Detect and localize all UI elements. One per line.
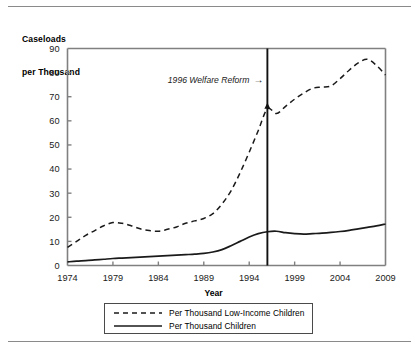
y-tick-label: 70 bbox=[49, 92, 59, 102]
x-axis-title: Year bbox=[204, 288, 223, 298]
series-line-1 bbox=[68, 224, 386, 262]
legend-label-low-income: Per Thousand Low-Income Children bbox=[169, 308, 305, 318]
y-tick-label: 50 bbox=[49, 140, 59, 150]
legend-label-children: Per Thousand Children bbox=[169, 321, 256, 331]
legend-swatch-dashed bbox=[113, 308, 163, 318]
x-tick-label: 1974 bbox=[57, 273, 77, 283]
annotation-arrowhead-icon bbox=[264, 103, 270, 109]
x-tick-label: 1999 bbox=[284, 273, 304, 283]
y-tick-label: 30 bbox=[49, 189, 59, 199]
y-tick-label: 80 bbox=[49, 68, 59, 78]
x-tick-label: 1984 bbox=[148, 273, 168, 283]
chart-legend: Per Thousand Low-Income Children Per Tho… bbox=[104, 303, 313, 334]
y-tick-label: 40 bbox=[49, 164, 59, 174]
line-chart: 0102030405060708090197419791984198919941… bbox=[0, 0, 419, 300]
x-tick-label: 1994 bbox=[239, 273, 259, 283]
legend-item-children: Per Thousand Children bbox=[113, 319, 256, 333]
y-tick-label: 90 bbox=[49, 44, 59, 54]
legend-item-low-income: Per Thousand Low-Income Children bbox=[113, 306, 305, 320]
series-line-0 bbox=[68, 59, 386, 247]
plot-area: 0102030405060708090197419791984198919941… bbox=[0, 0, 419, 300]
legend-swatch-solid bbox=[113, 321, 163, 331]
y-tick-label: 60 bbox=[49, 116, 59, 126]
bottom-divider-rule bbox=[8, 341, 411, 342]
y-tick-label: 20 bbox=[49, 213, 59, 223]
x-tick-label: 2009 bbox=[375, 273, 395, 283]
annotation-arrow-icon: → bbox=[253, 74, 263, 85]
welfare-reform-annotation: 1996 Welfare Reform bbox=[168, 75, 250, 85]
y-tick-label: 10 bbox=[49, 237, 59, 247]
figure-container: Caseloads per Thousand 01020304050607080… bbox=[0, 0, 419, 353]
x-tick-label: 1989 bbox=[194, 273, 214, 283]
y-tick-label: 0 bbox=[54, 261, 59, 271]
x-tick-label: 1979 bbox=[103, 273, 123, 283]
x-tick-label: 2004 bbox=[330, 273, 350, 283]
